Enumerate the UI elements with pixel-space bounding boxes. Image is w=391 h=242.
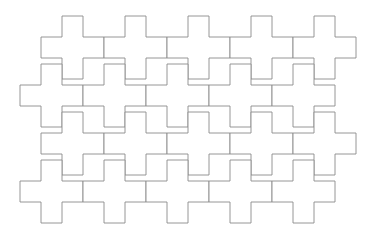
tile-layer	[20, 16, 356, 223]
figure-canvas	[0, 0, 391, 242]
cross-tessellation-diagram	[0, 0, 391, 242]
